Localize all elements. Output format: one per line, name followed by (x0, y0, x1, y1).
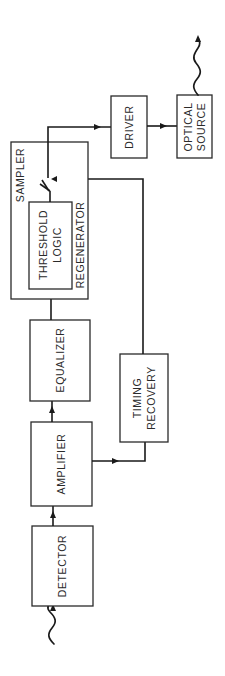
arrow-amplifier-timing-icon (112, 458, 119, 464)
driver-block: DRIVER (111, 96, 147, 158)
timing-recovery-block: TIMING RECOVERY (120, 354, 168, 442)
optical-source-label-line1: OPTICAL (182, 102, 194, 151)
optical-source-block: OPTICAL SOURCE (177, 95, 212, 158)
equalizer-label: EQUALIZER (54, 328, 66, 393)
amplifier-block: AMPLIFIER (31, 422, 92, 506)
arrow-driver-source-icon (160, 123, 167, 129)
equalizer-block: EQUALIZER (30, 320, 90, 401)
timing-recovery-label-line2: RECOVERY (145, 366, 157, 430)
threshold-label-line1: THRESHOLD (37, 210, 49, 280)
arrow-detector-amplifier-icon (50, 511, 56, 518)
arrow-amplifier-equalizer-icon (49, 406, 55, 413)
sampler-label: SAMPLER (14, 148, 26, 202)
timing-recovery-label-line1: TIMING (131, 378, 143, 418)
detector-block: DETECTOR (32, 526, 93, 606)
driver-label: DRIVER (123, 105, 135, 148)
output-arrow-icon (195, 35, 201, 42)
arrow-sampler-driver-icon (94, 124, 101, 130)
threshold-logic-block: THRESHOLD LOGIC (29, 202, 72, 289)
detector-label: DETECTOR (56, 535, 68, 597)
optical-source-label-line2: SOURCE (195, 103, 207, 152)
regenerator-block-diagram: DETECTOR AMPLIFIER EQUALIZER TIMING RECO… (0, 0, 225, 676)
wire-amplifier-timing (92, 442, 145, 461)
optical-output-wave-icon (194, 38, 201, 95)
amplifier-label: AMPLIFIER (55, 434, 67, 495)
regenerator-label: REGENERATOR (74, 202, 86, 289)
threshold-label-line2: LOGIC (51, 227, 63, 263)
